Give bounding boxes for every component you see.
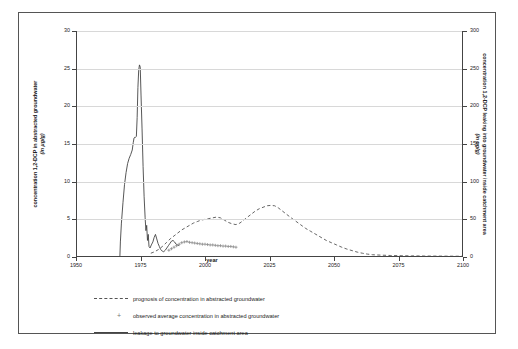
chart-legend: prognosis of concentration in abstracted… — [89, 290, 429, 341]
y-axis-left-line — [76, 31, 77, 257]
series-leakage-line — [119, 65, 180, 257]
observed-marker — [196, 242, 199, 245]
y-axis-left-tick — [72, 182, 76, 183]
x-axis-tick — [76, 257, 77, 261]
y-axis-right-title-units: (in µg/g) — [475, 133, 481, 154]
y-axis-left-tick-label: 30 — [64, 28, 70, 33]
x-axis-tick — [399, 257, 400, 261]
y-axis-left-title-units: (in µg/g) — [39, 133, 45, 154]
y-axis-right-tick-label: 300 — [470, 28, 479, 33]
y-axis-right-tick — [463, 144, 467, 145]
x-axis-tick-label: 2075 — [393, 263, 405, 268]
observed-marker — [188, 241, 191, 244]
legend-item: +observed average concentration in abstr… — [89, 307, 429, 324]
observed-marker — [206, 243, 209, 246]
gridline — [76, 219, 463, 220]
observed-marker — [173, 246, 176, 249]
y-axis-left-tick — [72, 31, 76, 32]
observed-marker — [185, 240, 188, 243]
y-axis-left-title-text: concentration 1,2-DCP in abstracted grou… — [32, 81, 38, 208]
x-axis-tick-label: 2000 — [199, 263, 211, 268]
x-axis-title: year — [206, 257, 218, 263]
y-axis-right-tick — [463, 182, 467, 183]
observed-marker — [180, 241, 183, 244]
y-axis-right-tick — [463, 69, 467, 70]
y-axis-left-tick-label: 20 — [64, 104, 70, 109]
y-axis-right-tick-label: 0 — [470, 254, 473, 259]
dashed-line-icon — [94, 298, 128, 299]
y-axis-left-tick — [72, 144, 76, 145]
y-axis-right-title-text: concentration 1,2-DCP leaking into groun… — [482, 53, 488, 234]
observed-marker — [183, 240, 186, 243]
observed-marker — [214, 244, 217, 247]
observed-marker — [229, 245, 232, 248]
x-axis-tick — [141, 257, 142, 261]
series-observed-markers — [167, 240, 237, 252]
y-axis-left-tick-label: 0 — [67, 254, 70, 259]
gridline — [76, 182, 463, 183]
observed-marker — [227, 245, 230, 248]
x-axis-tick-label: 2025 — [264, 263, 276, 268]
x-axis-tick-label: 2100 — [457, 263, 469, 268]
legend-item: prognosis of concentration in abstracted… — [89, 290, 429, 307]
x-axis-tick — [334, 257, 335, 261]
x-axis-tick — [270, 257, 271, 261]
observed-marker — [209, 243, 212, 246]
y-axis-right-title: concentration 1,2-DCP leaking into groun… — [474, 36, 488, 252]
y-axis-left-tick — [72, 69, 76, 70]
y-axis-left-title: concentration 1,2-DCP in abstracted grou… — [32, 39, 46, 249]
observed-marker — [167, 249, 170, 252]
x-axis-tick — [463, 257, 464, 261]
solid-line-icon — [94, 332, 128, 333]
observed-marker — [201, 243, 204, 246]
legend-plus-symbol-icon: + — [89, 311, 133, 321]
observed-marker — [222, 245, 225, 248]
legend-item-label: leakage to groundwater inside catchment … — [133, 330, 248, 336]
y-axis-right-tick — [463, 219, 467, 220]
gridline — [76, 106, 463, 107]
gridline — [76, 31, 463, 32]
observed-marker — [191, 241, 194, 244]
x-axis-tick-label: 1975 — [135, 263, 147, 268]
observed-marker — [216, 244, 219, 247]
y-axis-left-tick-label: 5 — [67, 217, 70, 222]
observed-marker — [219, 244, 222, 247]
series-prognosis-line — [151, 205, 463, 256]
observed-marker — [198, 242, 201, 245]
y-axis-left-tick-label: 10 — [64, 179, 70, 184]
y-axis-right-tick — [463, 106, 467, 107]
legend-item-label: observed average concentration in abstra… — [133, 313, 279, 319]
y-axis-right-tick — [463, 31, 467, 32]
gridline — [76, 69, 463, 70]
observed-marker — [224, 245, 227, 248]
y-axis-left-tick-label: 25 — [64, 66, 70, 71]
legend-item-label: prognosis of concentration in abstracted… — [133, 296, 265, 302]
legend-solid-line-icon — [89, 328, 133, 338]
y-axis-left-tick — [72, 106, 76, 107]
legend-dashed-line-icon — [89, 294, 133, 304]
observed-marker — [232, 245, 235, 248]
observed-marker — [211, 243, 214, 246]
gridline — [76, 144, 463, 145]
plus-symbol-icon: + — [101, 312, 121, 319]
y-axis-left-tick-label: 15 — [64, 141, 70, 146]
x-axis-tick-label: 1950 — [70, 263, 82, 268]
observed-marker — [204, 243, 207, 246]
legend-item: leakage to groundwater inside catchment … — [89, 324, 429, 341]
observed-marker — [170, 247, 173, 250]
observed-marker — [234, 246, 237, 249]
observed-marker — [193, 242, 196, 245]
y-axis-left-tick — [72, 219, 76, 220]
x-axis-tick-label: 2050 — [328, 263, 340, 268]
chart-figure-frame: 051015202530 050100150200250300 19501975… — [18, 12, 496, 334]
plot-area: 051015202530 050100150200250300 19501975… — [76, 31, 463, 257]
